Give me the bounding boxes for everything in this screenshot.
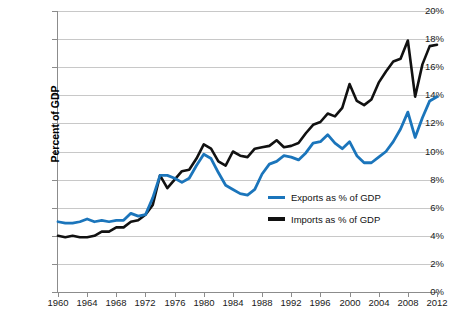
legend-label-imports: Imports as % of GDP: [291, 214, 380, 225]
legend-swatch-imports: [268, 217, 285, 221]
x-axis-tick-label: 2012: [417, 297, 452, 308]
x-axis-line: [58, 292, 437, 293]
chart-legend: Exports as % of GDP Imports as % of GDP: [268, 186, 428, 230]
legend-item-imports: Imports as % of GDP: [268, 208, 428, 230]
cropped-title-sliver: [60, 0, 360, 4]
legend-label-exports: Exports as % of GDP: [291, 192, 381, 203]
legend-swatch-exports: [268, 196, 285, 199]
legend-item-exports: Exports as % of GDP: [268, 186, 428, 208]
series-plot: [58, 11, 437, 292]
